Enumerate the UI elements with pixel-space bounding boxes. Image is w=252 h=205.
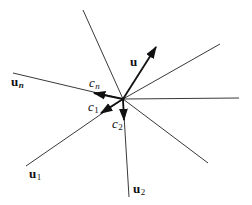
ray-lower-right <box>123 99 208 163</box>
apex-point <box>122 98 125 101</box>
label-u2: u2 <box>133 181 145 197</box>
rays <box>13 10 239 197</box>
ray-right <box>123 98 239 99</box>
vector-cn <box>94 93 123 99</box>
vectors <box>94 47 156 120</box>
vector-c1 <box>101 99 123 113</box>
label-cn: cn <box>89 75 100 91</box>
vector-u <box>123 47 156 99</box>
cone-diagram: u un u1 u2 cn c1 c2 <box>0 0 252 205</box>
ray-upper-right <box>123 44 220 99</box>
label-c2: c2 <box>112 116 123 132</box>
label-un: un <box>11 74 24 90</box>
label-c1: c1 <box>88 99 99 115</box>
label-u: u <box>130 54 137 69</box>
vector-c2 <box>123 99 124 120</box>
label-u1: u1 <box>29 166 41 182</box>
